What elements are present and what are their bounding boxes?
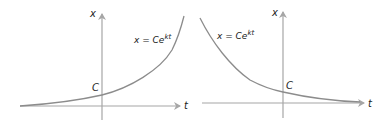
x-axis-label: x [271, 7, 278, 18]
t-axis-label: t [368, 98, 373, 109]
decay-panel: x t C x = Cekt [200, 7, 373, 118]
equation-label: x = Cekt [216, 29, 254, 41]
growth-panel: x t C x = Cekt [20, 8, 189, 120]
intercept-label: C [286, 80, 293, 91]
intercept-label: C [92, 82, 99, 93]
t-axis-label: t [184, 100, 189, 111]
exponential-graphs-figure: x t C x = Cekt x t C x = Cekt [0, 0, 390, 126]
x-axis-label: x [89, 8, 96, 19]
equation-label: x = Cekt [133, 33, 171, 45]
